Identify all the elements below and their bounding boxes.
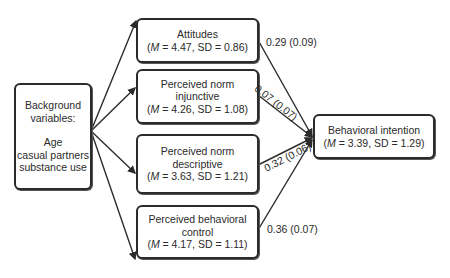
injunctive-stats: (M = 4.26, SD = 1.08) (147, 103, 248, 116)
pbc-stats: (M = 4.17, SD = 1.11) (147, 238, 247, 251)
descriptive-label-1: Perceived norm (161, 145, 235, 158)
descriptive-stats: (M = 3.63, SD = 1.21) (147, 170, 248, 183)
intention-label: Behavioral intention (328, 124, 420, 137)
node-attitudes: Attitudes (M = 4.47, SD = 0.86) (136, 18, 259, 63)
pbc-label-2: control (182, 226, 214, 239)
attitudes-stats: (M = 4.47, SD = 0.86) (147, 41, 248, 54)
injunctive-label-2: injunctive (176, 90, 220, 103)
background-item-age: Age (44, 136, 63, 149)
node-behavioral-intention: Behavioral intention (M = 3.39, SD = 1.2… (313, 114, 435, 159)
background-item-substance-use: substance use (19, 161, 87, 174)
arrow-background-attitudes (91, 21, 136, 131)
background-title-2: variables: (31, 112, 76, 125)
arrow-background-pbc (91, 131, 135, 259)
attitudes-label: Attitudes (177, 28, 218, 41)
node-perceived-behavioral-control: Perceived behavioral control (M = 4.17, … (136, 205, 259, 259)
node-norm-injunctive: Perceived norm injunctive (M = 4.26, SD … (136, 69, 259, 124)
intention-stats: (M = 3.39, SD = 1.29) (324, 137, 425, 150)
arrow-background-injunctive (91, 88, 135, 131)
descriptive-label-2: descriptive (172, 158, 222, 171)
node-background-variables: Background variables: Age casual partner… (14, 83, 92, 190)
background-title-1: Background (25, 99, 81, 112)
background-item-casual-partners: casual partners (17, 149, 89, 162)
injunctive-label-1: Perceived norm (161, 78, 235, 91)
node-norm-descriptive: Perceived norm descriptive (M = 3.63, SD… (136, 134, 259, 194)
path-label-attitudes: 0.29 (0.09) (266, 36, 317, 48)
path-label-pbc: 0.36 (0.07) (267, 223, 318, 235)
pbc-label-1: Perceived behavioral (148, 213, 246, 226)
